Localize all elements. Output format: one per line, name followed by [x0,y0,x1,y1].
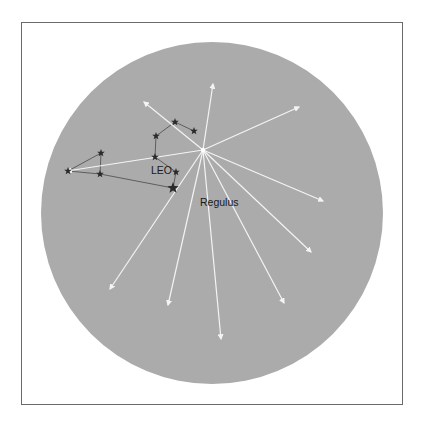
radiant-point [201,148,205,152]
meteor-shower-diagram: LEO Regulus [0,0,422,421]
radiant-label: Regulus [200,196,239,208]
constellation-label: LEO [151,164,172,176]
